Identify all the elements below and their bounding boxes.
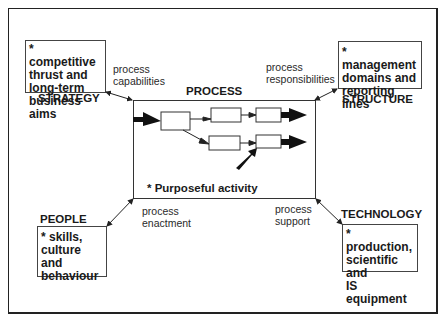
note-line: responsibilities <box>266 73 335 85</box>
strategy-label: STRATEGY <box>38 92 100 104</box>
process-support-label: process support <box>275 203 312 227</box>
people-line: culture and <box>41 244 103 270</box>
note-line: support <box>275 215 312 227</box>
technology-label: TECHNOLOGY <box>341 208 422 220</box>
process-responsibilities-label: process responsibilities <box>266 61 335 85</box>
process-enactment-label: process enactment <box>142 205 191 229</box>
structure-label: STRUCTURE <box>342 93 413 105</box>
technology-box: * production, scientific and IS equipmen… <box>342 224 418 272</box>
people-box: * skills, culture and behaviour <box>37 226 107 277</box>
note-line: process <box>275 203 312 215</box>
note-line: capabilities <box>113 75 165 87</box>
process-title: PROCESS <box>186 85 242 97</box>
structure-box: * management domains and reporting lines <box>338 41 422 89</box>
people-label: PEOPLE <box>40 213 87 225</box>
strategy-box: * competitive thrust and long-term busin… <box>25 40 106 93</box>
note-line: process <box>142 205 191 217</box>
technology-line: * production, <box>346 228 414 254</box>
purposeful-activity-label: * Purposeful activity <box>147 182 258 194</box>
people-line: behaviour <box>41 270 103 283</box>
note-line: process <box>266 61 335 73</box>
strategy-line: * competitive <box>29 43 102 69</box>
note-line: process <box>113 63 165 75</box>
technology-line: IS equipment <box>346 280 414 306</box>
structure-line: * management <box>342 46 418 72</box>
process-capabilities-label: process capabilities <box>113 63 165 87</box>
note-line: enactment <box>142 217 191 229</box>
technology-line: scientific and <box>346 254 414 280</box>
